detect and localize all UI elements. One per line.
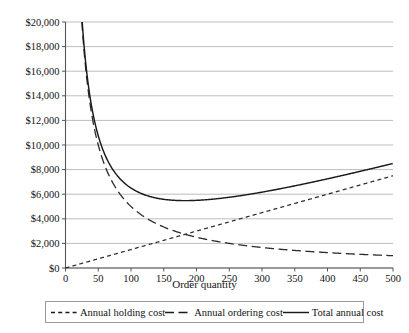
y-axis-tick-label: $14,000 xyxy=(0,90,60,101)
y-axis-tick-label: $8,000 xyxy=(0,164,60,175)
y-axis-tick-label: $12,000 xyxy=(0,115,60,126)
y-axis-tick-label: $10,000 xyxy=(0,140,60,151)
eoq-cost-chart: $0$2,000$4,000$6,000$8,000$10,000$12,000… xyxy=(0,0,409,333)
y-axis-tick-label: $4,000 xyxy=(0,213,60,224)
y-axis-tick-label: $20,000 xyxy=(0,17,60,28)
legend-item-label: Total annual cost xyxy=(312,307,384,318)
legend-item-label: Annual ordering cost xyxy=(194,307,283,318)
legend-swatch-dashed-long-icon xyxy=(165,308,191,317)
y-axis-tick-label: $2,000 xyxy=(0,238,60,249)
y-axis-tick-label: $0 xyxy=(0,263,60,274)
y-axis-tick-label: $16,000 xyxy=(0,66,60,77)
series-line xyxy=(66,176,394,268)
series-line xyxy=(82,22,393,256)
x-axis-title: Order quantity xyxy=(0,278,409,290)
chart-legend: Annual holding costAnnual ordering costT… xyxy=(45,301,364,323)
legend-item: Annual holding cost xyxy=(51,307,165,318)
legend-item: Annual ordering cost xyxy=(165,307,283,318)
legend-item: Total annual cost xyxy=(283,307,384,318)
series-line xyxy=(82,22,392,201)
y-axis-tick-label: $18,000 xyxy=(0,41,60,52)
legend-item-label: Annual holding cost xyxy=(80,307,165,318)
legend-swatch-solid-icon xyxy=(283,308,309,317)
y-axis-tick-label: $6,000 xyxy=(0,189,60,200)
legend-swatch-dashed-short-icon xyxy=(51,308,77,317)
